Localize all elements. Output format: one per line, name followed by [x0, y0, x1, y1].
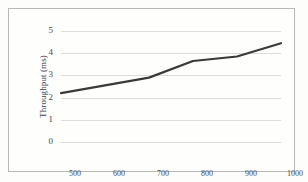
series-polyline	[61, 43, 281, 93]
xtick-label-800: 800	[187, 169, 227, 178]
xtick-label-900: 900	[231, 169, 271, 178]
gridline-0	[61, 142, 281, 143]
xtick-label-500: 500	[55, 169, 95, 178]
xtick-label-700: 700	[143, 169, 183, 178]
y-axis-title: Throughput (ms)	[37, 31, 49, 142]
figure-page: 5 4 3 2 1 0 500 600 700 800 900 1000 Thr…	[0, 0, 308, 182]
plot-area: 5 4 3 2 1 0 500 600 700 800 900 1000 Thr…	[61, 31, 281, 142]
data-line-series	[61, 31, 281, 142]
figure-border: 5 4 3 2 1 0 500 600 700 800 900 1000 Thr…	[8, 8, 295, 172]
xtick-label-1000: 1000	[275, 169, 308, 178]
xtick-label-600: 600	[99, 169, 139, 178]
